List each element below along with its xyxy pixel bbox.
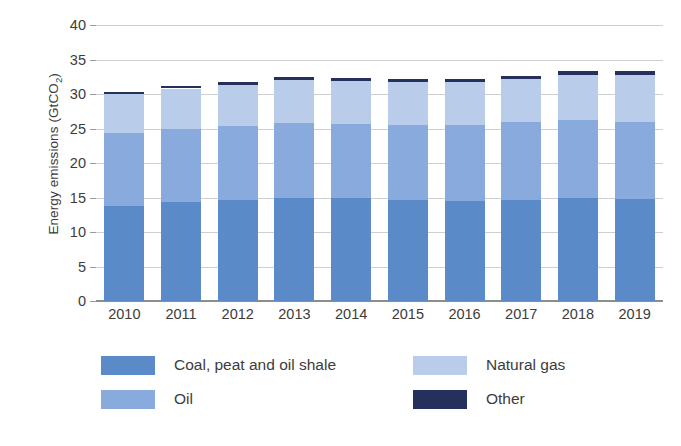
legend-label-other: Other xyxy=(486,389,525,409)
bar-2017[interactable] xyxy=(501,76,541,301)
bar-segment-oil-2014[interactable] xyxy=(331,124,371,198)
bar-segment-oil-2015[interactable] xyxy=(388,125,428,200)
bar-2018[interactable] xyxy=(558,71,598,301)
y-tick-label-40: 40 xyxy=(0,17,86,33)
bar-segment-oil-2017[interactable] xyxy=(501,122,541,199)
chart-legend: Coal, peat and oil shale Natural gas Oil… xyxy=(101,355,621,423)
plot-area: 0510152025303540 xyxy=(96,25,663,301)
bar-segment-coal-2014[interactable] xyxy=(331,198,371,302)
x-tick-label-2011: 2011 xyxy=(165,306,196,322)
y-tick-label-25: 25 xyxy=(0,121,86,137)
y-tick-label-0: 0 xyxy=(0,293,86,309)
bar-segment-oil-2013[interactable] xyxy=(274,123,314,198)
x-tick-label-2019: 2019 xyxy=(619,306,651,322)
bar-segment-natural-gas-2018[interactable] xyxy=(558,75,598,120)
bar-segment-other-2018[interactable] xyxy=(558,71,598,74)
x-tick-label-2017: 2017 xyxy=(505,306,537,322)
legend-item-natural-gas[interactable]: Natural gas xyxy=(413,355,621,375)
legend-label-natural-gas: Natural gas xyxy=(486,355,565,375)
bar-segment-other-2015[interactable] xyxy=(388,79,428,82)
bar-2016[interactable] xyxy=(445,78,485,301)
bar-segment-natural-gas-2011[interactable] xyxy=(161,89,201,130)
legend-label-coal: Coal, peat and oil shale xyxy=(174,355,336,375)
bar-segment-coal-2017[interactable] xyxy=(501,200,541,301)
bar-segment-natural-gas-2010[interactable] xyxy=(104,94,144,133)
legend-swatch-other xyxy=(413,390,467,409)
y-tick-label-20: 20 xyxy=(0,155,86,171)
bar-segment-natural-gas-2016[interactable] xyxy=(445,82,485,125)
y-tick-label-35: 35 xyxy=(0,52,86,68)
bar-segment-oil-2010[interactable] xyxy=(104,133,144,206)
bar-segment-coal-2012[interactable] xyxy=(218,200,258,301)
x-tick-label-2014: 2014 xyxy=(335,306,367,322)
bar-segment-other-2014[interactable] xyxy=(331,78,371,81)
bar-2010[interactable] xyxy=(104,92,144,301)
bar-segment-other-2017[interactable] xyxy=(501,76,541,79)
legend-row: Oil Other xyxy=(101,389,621,423)
bar-segment-natural-gas-2015[interactable] xyxy=(388,82,428,125)
bar-2012[interactable] xyxy=(218,82,258,301)
bar-segment-coal-2019[interactable] xyxy=(615,199,655,301)
bar-segment-oil-2018[interactable] xyxy=(558,120,598,199)
bar-segment-other-2012[interactable] xyxy=(218,82,258,85)
bar-segment-natural-gas-2019[interactable] xyxy=(615,75,655,122)
bar-segment-other-2013[interactable] xyxy=(274,77,314,80)
bar-segment-natural-gas-2017[interactable] xyxy=(501,79,541,122)
bar-2011[interactable] xyxy=(161,86,201,301)
x-tick-label-2012: 2012 xyxy=(222,306,254,322)
x-tick-label-2010: 2010 xyxy=(108,306,140,322)
y-tick-label-5: 5 xyxy=(0,259,86,275)
x-tick-label-2016: 2016 xyxy=(448,306,480,322)
x-tick-label-2018: 2018 xyxy=(562,306,594,322)
stacked-bar-chart: Energy emissions (GtCO2) 051015202530354… xyxy=(0,0,681,446)
bar-segment-coal-2015[interactable] xyxy=(388,200,428,301)
legend-swatch-coal xyxy=(101,356,155,375)
legend-row: Coal, peat and oil shale Natural gas xyxy=(101,355,621,389)
y-tick-label-30: 30 xyxy=(0,86,86,102)
legend-label-oil: Oil xyxy=(174,389,193,409)
y-tick-label-15: 15 xyxy=(0,190,86,206)
bar-segment-other-2019[interactable] xyxy=(615,71,655,74)
bar-2015[interactable] xyxy=(388,78,428,301)
bar-series-container xyxy=(96,25,663,301)
x-tick-label-2015: 2015 xyxy=(392,306,424,322)
x-axis-labels: 2010201120122013201420152016201720182019 xyxy=(96,306,663,330)
bar-segment-natural-gas-2013[interactable] xyxy=(274,80,314,123)
bar-segment-other-2016[interactable] xyxy=(445,79,485,82)
bar-segment-oil-2011[interactable] xyxy=(161,129,201,201)
x-tick-label-2013: 2013 xyxy=(278,306,310,322)
bar-segment-natural-gas-2014[interactable] xyxy=(331,81,371,124)
bar-segment-other-2010[interactable] xyxy=(104,92,144,94)
legend-item-other[interactable]: Other xyxy=(413,389,621,409)
bar-segment-coal-2018[interactable] xyxy=(558,198,598,301)
bar-segment-coal-2011[interactable] xyxy=(161,202,201,301)
bar-2014[interactable] xyxy=(331,78,371,301)
bar-segment-natural-gas-2012[interactable] xyxy=(218,85,258,126)
bar-segment-coal-2010[interactable] xyxy=(104,206,144,301)
bar-segment-coal-2013[interactable] xyxy=(274,198,314,302)
legend-swatch-natural-gas xyxy=(413,356,467,375)
bar-2019[interactable] xyxy=(615,71,655,301)
y-tick-label-10: 10 xyxy=(0,224,86,240)
legend-item-coal[interactable]: Coal, peat and oil shale xyxy=(101,355,413,375)
legend-swatch-oil xyxy=(101,390,155,409)
bar-2013[interactable] xyxy=(274,77,314,301)
bar-segment-oil-2012[interactable] xyxy=(218,126,258,201)
legend-item-oil[interactable]: Oil xyxy=(101,389,413,409)
bar-segment-other-2011[interactable] xyxy=(161,86,201,89)
bar-segment-coal-2016[interactable] xyxy=(445,201,485,301)
bar-segment-oil-2019[interactable] xyxy=(615,122,655,199)
bar-segment-oil-2016[interactable] xyxy=(445,125,485,201)
